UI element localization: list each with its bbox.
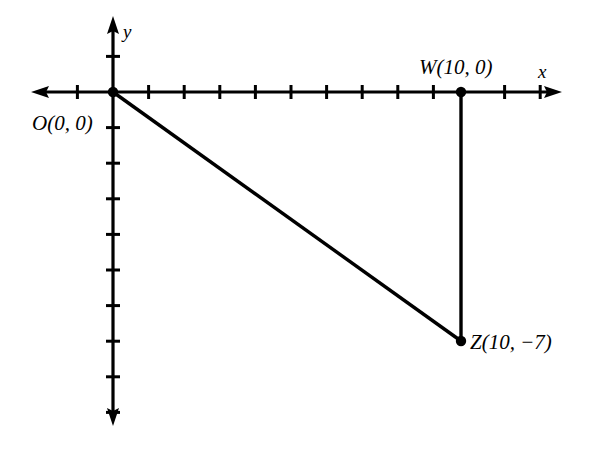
point-label-O: O(0, 0) (32, 113, 93, 134)
coordinate-plane-figure (0, 0, 601, 450)
point-label-W: W(10, 0) (419, 57, 492, 78)
point-marker-O (108, 87, 118, 97)
point-label-Z: Z(10, −7) (470, 332, 552, 353)
x-axis-label: x (538, 62, 546, 81)
point-marker-Z (456, 336, 466, 346)
point-marker-W (456, 87, 466, 97)
y-axis-label: y (123, 22, 131, 41)
